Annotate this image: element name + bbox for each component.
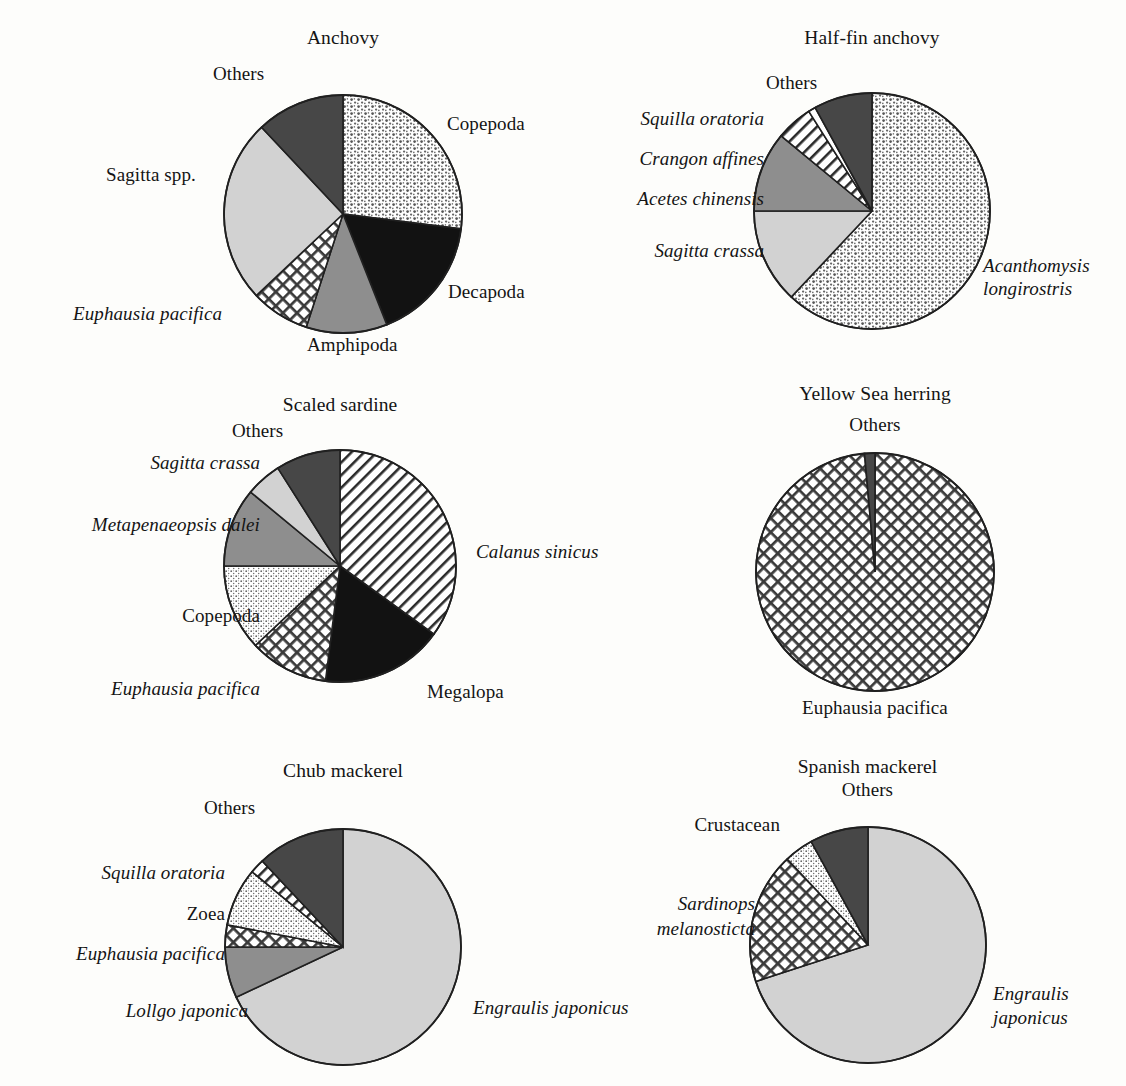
sardine-label-copepoda: Copepoda: [80, 605, 260, 627]
anchovy-label-euphausia-pacifica: Euphausia pacifica: [73, 303, 222, 325]
chub-label-zoea: Zoea: [50, 903, 225, 925]
spanish-label-engraulis-line2: japonicus: [993, 1007, 1068, 1029]
spanish-label-sardinops-line2: melanosticta: [600, 918, 755, 940]
spanish-label-crustacean: Crustacean: [620, 814, 780, 836]
chart-title-chub-mackerel: Chub mackerel: [243, 759, 443, 782]
halffin-label-others: Others: [766, 72, 817, 94]
anchovy-label-spp: spp.: [159, 164, 195, 185]
halffin-label-acetes-chinensis: Acetes chinensis: [579, 188, 764, 210]
halffin-label-sagitta-crassa: Sagitta crassa: [579, 240, 764, 262]
sardine-label-others: Others: [232, 420, 283, 442]
chart-title-halffin-anchovy: Half-fin anchovy: [772, 26, 972, 49]
herring-label-others: Others: [818, 414, 932, 436]
sardine-label-megalopa: Megalopa: [427, 681, 504, 703]
anchovy-label-others: Others: [213, 63, 264, 85]
halffin-label-squilla-oratoria: Squilla oratoria: [579, 108, 764, 130]
chart-title-scaled-sardine: Scaled sardine: [240, 393, 440, 416]
pie-anchovy: [224, 95, 462, 333]
halffin-label-acanthomysis-line2: longirostris: [983, 278, 1072, 300]
pie-chart-figure: Anchovy Others Copepoda Decapoda Amphipo…: [0, 0, 1126, 1086]
anchovy-label-sagitta-spp: Sagitta spp.: [106, 164, 196, 186]
anchovy-label-amphipoda: Amphipoda: [307, 334, 398, 356]
chub-label-lollgo-japonica: Lollgo japonica: [58, 1000, 248, 1022]
halffin-label-acanthomysis-line1: Acanthomysis: [983, 255, 1090, 277]
herring-label-euphausia-pacifica: Euphausia pacifica: [775, 697, 975, 719]
chart-title-spanish-mackerel: Spanish mackerel: [765, 755, 970, 778]
spanish-label-sardinops-line1: Sardinops: [600, 893, 755, 915]
sardine-label-sagitta-crassa: Sagitta crassa: [60, 452, 260, 474]
chub-label-euphausia-pacifica: Euphausia pacifica: [20, 943, 225, 965]
sardine-label-calanus-sinicus: Calanus sinicus: [476, 541, 598, 563]
pie-spanish-mackerel: [750, 827, 986, 1063]
halffin-label-crangon-affines: Crangon affines: [579, 148, 764, 170]
chart-title-anchovy: Anchovy: [243, 26, 443, 49]
chub-label-squilla-oratoria: Squilla oratoria: [50, 862, 225, 884]
pie-half-fin-anchovy: [754, 93, 990, 329]
chart-title-yellow-sea-herring: Yellow Sea herring: [775, 382, 975, 405]
pie-chub-mackerel: [225, 829, 461, 1065]
sardine-label-euphausia-pacifica: Euphausia pacifica: [40, 678, 260, 700]
spanish-label-others: Others: [765, 779, 970, 801]
anchovy-label-decapoda: Decapoda: [448, 281, 525, 303]
anchovy-label-sagitta-genus: Sagitta: [106, 164, 159, 185]
pie-yellow-sea-herring: [756, 453, 994, 691]
pie-slice: [343, 95, 462, 229]
pie-scaled-sardine: [224, 450, 456, 682]
sardine-label-metapenaeopsis-dalei: Metapenaeopsis dalei: [20, 514, 260, 536]
chub-label-others: Others: [204, 797, 255, 819]
chub-label-engraulis-japonicus: Engraulis japonicus: [473, 997, 629, 1019]
anchovy-label-copepoda: Copepoda: [447, 113, 525, 135]
spanish-label-engraulis-line1: Engraulis: [993, 983, 1069, 1005]
